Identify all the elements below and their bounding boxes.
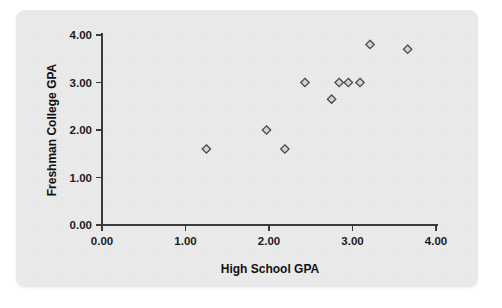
y-tick-label: 0.00: [70, 219, 92, 231]
x-axis-tick-labels: 0.00 1.00 2.00 3.00 4.00: [91, 235, 447, 247]
data-point-marker: [262, 126, 270, 134]
x-tick-label: 0.00: [91, 235, 113, 247]
data-point-marker: [281, 145, 289, 153]
y-axis-tick-labels: 4.00 3.00 2.00 1.00 0.00: [70, 29, 92, 231]
x-tick-label: 3.00: [341, 235, 363, 247]
data-point-marker: [202, 145, 210, 153]
x-tick-label: 1.00: [174, 235, 196, 247]
data-point-marker: [356, 78, 364, 86]
y-tick-label: 4.00: [70, 29, 92, 41]
x-tick-label: 2.00: [258, 235, 280, 247]
y-axis-ticks: [96, 35, 102, 225]
screenshot-root: 4.00 3.00 2.00 1.00 0.00 0.00 1.00 2.00 …: [0, 0, 502, 308]
x-axis-title: High School GPA: [221, 262, 320, 276]
x-tick-label: 4.00: [425, 235, 447, 247]
y-tick-label: 2.00: [70, 124, 92, 136]
data-point-marker: [327, 95, 335, 103]
data-point-marker: [403, 45, 411, 53]
data-point-marker: [366, 40, 374, 48]
y-tick-label: 3.00: [70, 77, 92, 89]
x-axis-ticks: [102, 225, 436, 231]
data-point-marker: [335, 78, 343, 86]
data-point-group: [202, 40, 412, 153]
scatter-plot: 4.00 3.00 2.00 1.00 0.00 0.00 1.00 2.00 …: [0, 0, 502, 308]
data-point-marker: [344, 78, 352, 86]
y-axis-title: Freshman College GPA: [45, 63, 59, 196]
y-tick-label: 1.00: [70, 172, 92, 184]
data-point-marker: [301, 78, 309, 86]
